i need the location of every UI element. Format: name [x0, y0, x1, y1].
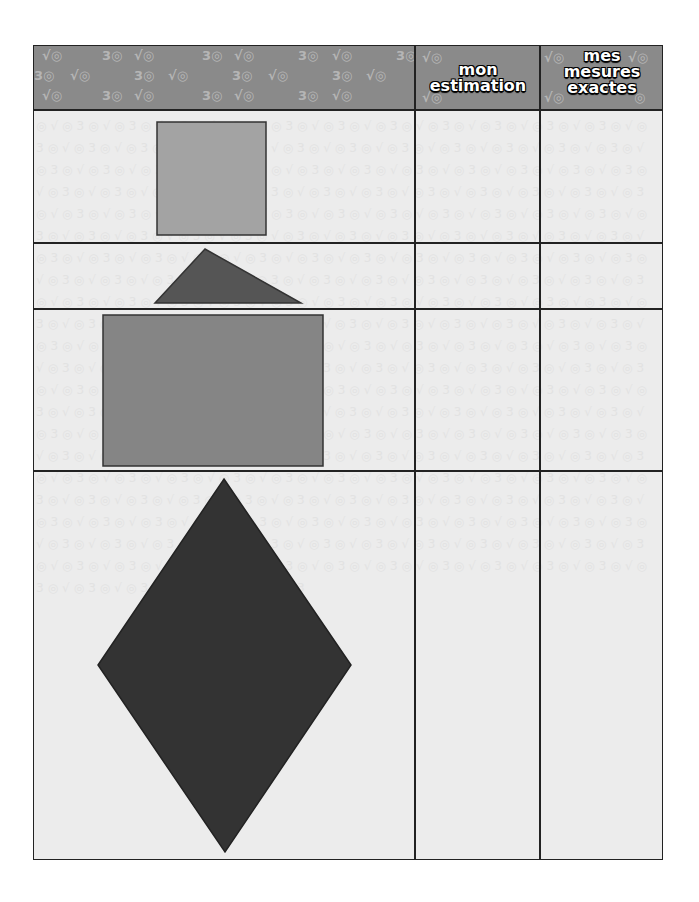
rectangle-shape	[103, 315, 323, 466]
rhombus-shape	[98, 479, 351, 852]
square-shape	[157, 122, 266, 235]
triangle-shape	[155, 249, 301, 303]
shapes-layer	[0, 0, 699, 902]
